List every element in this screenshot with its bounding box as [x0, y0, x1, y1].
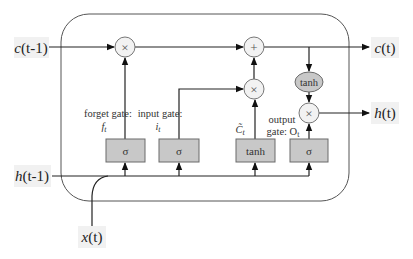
- input-to-mul-arrow: [179, 89, 243, 139]
- svg-text:c(t-1): c(t-1): [14, 40, 47, 57]
- input-gate-symbol: it: [155, 121, 161, 134]
- output-gate-label-1: output: [269, 114, 296, 125]
- candidate-symbol: C̃t: [235, 123, 245, 137]
- c-prev-label: c(t-1): [14, 37, 49, 58]
- input-gate-box: σ: [159, 139, 199, 162]
- input-multiply-op: ×: [244, 79, 264, 99]
- plus-icon: +: [250, 40, 257, 55]
- x-label: x(t): [78, 226, 106, 248]
- output-multiply-op: ×: [299, 103, 319, 123]
- svg-text:h(t): h(t): [374, 105, 396, 122]
- forget-multiply-op: ×: [115, 37, 135, 57]
- svg-text:x(t): x(t): [81, 229, 103, 246]
- input-activation: σ: [176, 145, 182, 157]
- tanh-label: tanh: [300, 77, 319, 88]
- lstm-diagram: σ σ tanh σ × + × tanh × forget gate: ft …: [0, 0, 413, 259]
- forget-gate-symbol: ft: [101, 121, 107, 134]
- candidate-activation: tanh: [246, 145, 265, 157]
- h-prev-label: h(t-1): [14, 165, 51, 187]
- c-out-label: c(t): [371, 37, 399, 58]
- add-op: +: [244, 37, 264, 57]
- svg-text:c(t): c(t): [375, 40, 396, 57]
- forget-gate-box: σ: [106, 139, 145, 162]
- h-out-label: h(t): [371, 102, 399, 124]
- output-activation: σ: [306, 145, 312, 157]
- forget-gate-label: forget gate:: [84, 108, 132, 119]
- multiply-icon: ×: [305, 106, 312, 121]
- multiply-icon: ×: [121, 40, 128, 55]
- candidate-box: tanh: [236, 139, 275, 162]
- multiply-icon: ×: [250, 82, 257, 97]
- forget-activation: σ: [123, 145, 129, 157]
- input-gate-label: input gate:: [138, 108, 183, 119]
- output-gate-box: σ: [290, 139, 328, 162]
- svg-text:h(t-1): h(t-1): [15, 168, 49, 185]
- cell-tanh-op: tanh: [295, 72, 323, 92]
- output-gate-label-2: gate: Ot: [267, 126, 301, 139]
